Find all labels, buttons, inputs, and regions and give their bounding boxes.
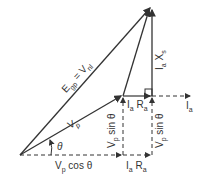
right-angle-marker: [145, 89, 152, 96]
vp-cos-v: V: [55, 160, 62, 171]
iara-t-r: R: [134, 99, 144, 110]
iaxs-sub: a: [160, 63, 167, 67]
vpsin-r-sub: p: [160, 137, 167, 141]
iara-top-label: Ia Ra: [127, 100, 148, 112]
vpsin-l-sub: p: [112, 137, 119, 141]
ia-label: Ia: [186, 101, 193, 113]
iaxs-x: X: [154, 54, 165, 63]
vp-cos-text: cos θ: [66, 160, 93, 171]
egp-vector: [20, 8, 150, 155]
vp-cos-label: Vp cos θ: [55, 161, 92, 173]
vpsin-l-v: V: [106, 141, 117, 148]
iara-bottom-label: Ia Ra: [126, 161, 147, 173]
vpsin-l-text: sin θ: [106, 114, 117, 138]
theta-arc: [50, 140, 52, 155]
iaxs-i: I: [154, 67, 165, 70]
ia-sub: a: [189, 106, 193, 113]
vpsin-r-text: sin θ: [154, 114, 165, 138]
iaxs-label: Ia Xs: [155, 50, 167, 70]
iara-t-rsub: a: [144, 105, 148, 112]
vpsin-r-v: V: [154, 141, 165, 148]
iara-b-r: R: [133, 160, 143, 171]
iaxs-xsub: s: [160, 50, 167, 54]
phasor-diagram: [0, 0, 204, 183]
vp-sin-left-label: Vp sin θ: [107, 114, 119, 148]
theta-label: θ: [57, 142, 62, 152]
iara-b-rsub: a: [143, 166, 147, 173]
vp-sin-right-label: Vp sin θ: [155, 114, 167, 148]
